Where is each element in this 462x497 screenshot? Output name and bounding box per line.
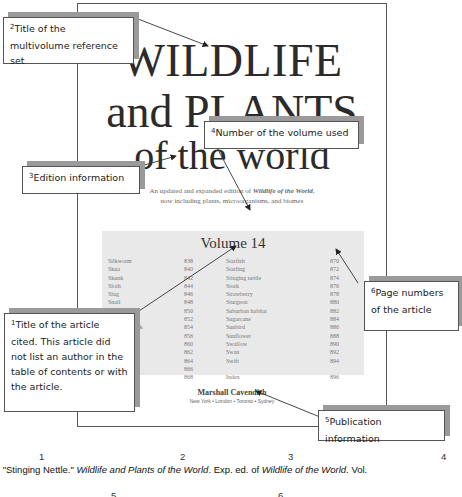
toc-entry-page: 848 <box>184 298 204 306</box>
toc-entry-name: Sunflower <box>226 332 306 340</box>
toc-entry-page: 880 <box>330 298 350 306</box>
toc-entry-name: Silkworm <box>108 257 168 265</box>
toc-entry-name: Strawberry <box>226 290 306 298</box>
table-of-contents: Volume 14 SilkwormSkuaSkunkSlothSlugSnai… <box>102 231 364 375</box>
callout-multivolume-title: 2Title of the multivolume reference set <box>3 17 134 64</box>
toc-entry-page: 876 <box>330 282 350 290</box>
toc-entry-name: Slug <box>108 290 168 298</box>
toc-entry-page: 862 <box>184 348 204 356</box>
toc-entry-name: Suburban habitat <box>226 307 306 315</box>
subtitle-original-title: Wildlife of the World <box>253 187 313 195</box>
callout-page-numbers: 6Page numbers of the article <box>364 281 459 331</box>
toc-entry-name: Sunbird <box>226 323 306 331</box>
toc-right-pages: 8708728748768788808828848868888908928948… <box>330 257 350 381</box>
callout-text: Title of the multivolume reference set <box>10 23 118 66</box>
toc-entry-name: Swallow <box>226 340 306 348</box>
citation-marker-2: 2 <box>180 451 185 462</box>
toc-entry-page: 892 <box>330 348 350 356</box>
toc-entry-page: 874 <box>330 274 350 282</box>
toc-entry-page: 868 <box>184 373 204 381</box>
toc-entry-name: Stinging nettle <box>226 274 306 282</box>
toc-entry-name <box>226 365 306 373</box>
toc-entry-page: 890 <box>330 340 350 348</box>
toc-entry-page: 872 <box>330 265 350 273</box>
citation-original-title: Wildlife of the World <box>262 464 346 475</box>
callout-text: Number of the volume used <box>215 127 348 138</box>
toc-entry-page: 896 <box>330 373 350 381</box>
callout-publication-info: 5Publication information <box>318 410 445 441</box>
callout-number: 1 <box>11 319 15 327</box>
citation-marker-3: 3 <box>288 451 293 462</box>
callout-number: 2 <box>10 23 14 31</box>
callout-text: Edition information <box>33 172 124 183</box>
toc-entry-page: 838 <box>184 257 204 265</box>
subtitle-suffix: , <box>313 187 315 195</box>
citation-set-title: Wildlife and Plants of the World <box>76 464 208 475</box>
callout-volume-number: 4Number of the volume used <box>204 121 359 149</box>
toc-entry-page: 878 <box>330 290 350 298</box>
citation-volume: . Vol. <box>346 464 367 475</box>
toc-entry-name: Stork <box>226 282 306 290</box>
toc-entry-page: 842 <box>184 274 204 282</box>
callout-text: Page numbers of the article <box>371 287 444 315</box>
toc-entry-page: 856 <box>184 332 204 340</box>
volume-title: Volume 14 <box>102 235 364 252</box>
edition-subtitle-line-2: now including plants, microorganisms, an… <box>78 196 386 206</box>
toc-entry-name: Sturgeon <box>226 298 306 306</box>
toc-right-names: StarfishStarlingStinging nettleStorkStra… <box>226 257 306 381</box>
toc-entry-page: 864 <box>184 357 204 365</box>
toc-entry-page: 846 <box>184 290 204 298</box>
citation-marker-6: 6 <box>278 490 283 497</box>
toc-entry-name: Swift <box>226 357 306 365</box>
toc-entry-page: 866 <box>184 365 204 373</box>
citation-marker-4: 4 <box>441 451 446 462</box>
toc-entry-page: 882 <box>330 307 350 315</box>
toc-entry-page: 854 <box>184 323 204 331</box>
toc-entry-page: 884 <box>330 315 350 323</box>
toc-entry-page: 840 <box>184 265 204 273</box>
callout-text: Title of the article cited. This article… <box>11 319 128 392</box>
toc-entry-name: Starling <box>226 265 306 273</box>
toc-entry-name: Skunk <box>108 274 168 282</box>
toc-entry-name: Sugarcane <box>226 315 306 323</box>
toc-entry-page: 870 <box>330 257 350 265</box>
callout-number: 3 <box>29 172 33 180</box>
citation-marker-1: 1 <box>39 451 44 462</box>
callout-number: 4 <box>211 127 215 135</box>
callout-article-title: 1Title of the article cited. This articl… <box>4 313 135 412</box>
toc-entry-page: 850 <box>184 307 204 315</box>
toc-entry-page: 888 <box>330 332 350 340</box>
toc-entry-page: 894 <box>330 357 350 365</box>
toc-entry-page: 860 <box>184 340 204 348</box>
callout-number: 5 <box>325 416 329 424</box>
toc-entry-page: 844 <box>184 282 204 290</box>
toc-entry-name: Sloth <box>108 282 168 290</box>
toc-entry-page: 886 <box>330 323 350 331</box>
toc-entry-page <box>330 365 350 373</box>
toc-entry-name: Index <box>226 373 306 381</box>
subtitle-prefix: An updated and expanded edition of <box>149 187 252 195</box>
toc-left-pages: 8388408428448468488508528548568608628648… <box>184 257 204 381</box>
toc-entry-name: Skua <box>108 265 168 273</box>
callout-number: 6 <box>371 287 375 295</box>
toc-entry-name: Snail <box>108 298 168 306</box>
callout-edition-info: 3Edition information <box>22 166 140 194</box>
toc-entry-name: Swan <box>226 348 306 356</box>
citation-article-title: "Stinging Nettle." <box>3 464 77 475</box>
citation-edition: . Exp. ed. of <box>208 464 261 475</box>
toc-entry-name: Starfish <box>226 257 306 265</box>
citation-marker-5: 5 <box>111 490 116 497</box>
citation-line: "Stinging Nettle." Wildlife and Plants o… <box>0 464 462 475</box>
callout-text: Publication information <box>325 416 382 444</box>
toc-entry-page: 852 <box>184 315 204 323</box>
